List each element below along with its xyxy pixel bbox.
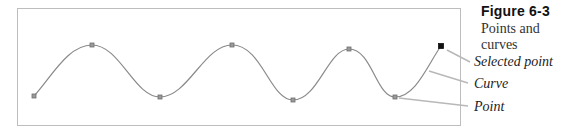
control-point[interactable] [393, 95, 397, 99]
figure-subtitle: Points and curves [481, 21, 579, 53]
control-point[interactable] [90, 43, 94, 47]
control-point[interactable] [291, 98, 295, 102]
control-point[interactable] [32, 94, 36, 98]
figure-stage: Figure 6-3 Points and curves Selected po… [0, 0, 579, 130]
figure-title: Figure 6-3 [481, 3, 550, 19]
control-point[interactable] [230, 43, 234, 47]
callout-point: Point [474, 99, 504, 115]
callout-curve: Curve [474, 76, 508, 92]
callout-selected-point: Selected point [474, 54, 553, 70]
control-point[interactable] [347, 47, 351, 51]
selected-point[interactable] [439, 44, 444, 49]
diagram-frame [18, 9, 461, 126]
control-point[interactable] [158, 95, 162, 99]
